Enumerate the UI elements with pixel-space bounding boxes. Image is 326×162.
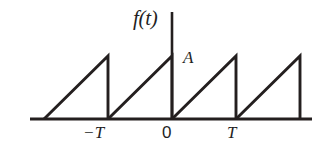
sawtooth-figure: f(t) A −T 0 T: [0, 0, 326, 162]
sawtooth-cycle-3: [172, 56, 236, 119]
function-label: f(t): [133, 8, 157, 29]
sawtooth-cycle-2: [108, 56, 172, 119]
sawtooth-waveform: [44, 56, 300, 119]
sawtooth-cycle-4: [236, 56, 300, 119]
tick-label-period: T: [227, 124, 237, 141]
tick-label-origin: 0: [162, 124, 171, 141]
sawtooth-cycle-1: [44, 56, 108, 119]
amplitude-label: A: [183, 49, 193, 66]
tick-label-negative-period: −T: [83, 124, 105, 141]
